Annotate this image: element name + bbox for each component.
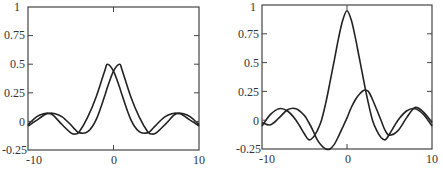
- y-tick-label: 1: [14, 0, 20, 14]
- y-tick-label: 0: [253, 114, 259, 128]
- y-tick-label: 0: [19, 115, 25, 129]
- x-tick-label: 0: [345, 152, 351, 166]
- x-tick-label: -10: [26, 153, 42, 167]
- right-chart-series: [262, 11, 432, 150]
- x-tick-label: 10: [426, 152, 438, 166]
- x-tick-label: 10: [193, 153, 205, 167]
- series-line-odd-component: [262, 90, 432, 149]
- y-tick-label: 0.25: [4, 86, 25, 100]
- right-chart-frame: [262, 5, 432, 149]
- y-tick-label: -0.25: [236, 142, 261, 156]
- x-tick-label: 0: [111, 153, 117, 167]
- y-tick-label: 0.25: [238, 85, 259, 99]
- series-line-curve-left-shift: [28, 64, 199, 134]
- y-tick-label: 0.5: [10, 57, 25, 71]
- left-chart-x-axis: -10 0 10: [26, 153, 205, 167]
- y-tick-label: 1: [250, 0, 256, 14]
- series-line-curve-right-shift: [28, 64, 199, 134]
- right-chart: 1 0.75 0.5 0.25 0 -0.25 -10 0 10: [236, 0, 438, 166]
- y-tick-label: 0.75: [4, 28, 25, 42]
- left-chart-series: [28, 64, 199, 134]
- y-tick-label: 0.5: [244, 56, 259, 70]
- right-chart-x-axis: -10 0 10: [259, 152, 438, 166]
- left-chart: 1 0.75 0.5 0.25 0 -0.25 -10 0 10: [2, 0, 205, 167]
- chart-canvas: 1 0.75 0.5 0.25 0 -0.25 -10 0 10 1 0.75 …: [0, 0, 443, 169]
- x-tick-label: -10: [259, 152, 275, 166]
- right-chart-y-axis: 1 0.75 0.5 0.25 0 -0.25: [236, 0, 261, 156]
- left-chart-y-axis: 1 0.75 0.5 0.25 0 -0.25: [2, 0, 27, 157]
- series-line-central-peak: [262, 11, 432, 140]
- y-tick-label: -0.25: [2, 143, 27, 157]
- y-tick-label: 0.75: [238, 27, 259, 41]
- left-chart-frame: [28, 7, 199, 150]
